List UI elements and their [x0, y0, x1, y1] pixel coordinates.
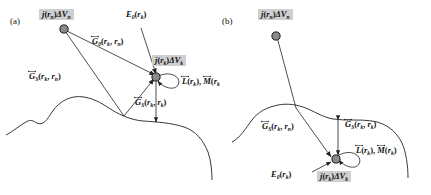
double-arrow-accent-icon: [91, 32, 100, 37]
gs-kn-b-sym-sub: S: [268, 126, 271, 132]
panel-b-graphics: [232, 32, 408, 178]
double-arrow-accent-icon: [344, 115, 353, 120]
m-a-arg-sub: k: [217, 81, 220, 87]
label-incident-b: E0(rk): [271, 170, 291, 179]
field-b-arg-sub: k: [329, 176, 332, 182]
m-b-tensor: M: [377, 146, 385, 155]
node-field-point-b: [332, 155, 340, 163]
g0-a-arg1-sub: k: [107, 41, 110, 47]
g0-a-sym-sub: 0: [98, 41, 101, 47]
gs-kk-b-arg2-sub: k: [371, 124, 374, 130]
gs-kn-b-arg2-sub: n: [288, 126, 291, 132]
label-lm-b: L (rk), M (rk): [356, 146, 397, 155]
node-source-b: [272, 32, 280, 40]
gs-kk-b-arg1-sub: k: [360, 124, 363, 130]
gs-kk-b-sym-sub: S: [351, 124, 354, 130]
field-a-delta-sub: k: [180, 60, 183, 66]
double-arrow-accent-icon: [354, 141, 363, 146]
label-source-a: j(rn)ΔVn: [39, 9, 74, 20]
l-a-arg-sub: k: [193, 81, 196, 87]
arrow-incident-a: [141, 28, 156, 74]
m-b-arg-sub: k: [391, 150, 394, 156]
node-source-a: [60, 25, 68, 33]
double-arrow-accent-icon: [261, 117, 270, 122]
gs-kk-a-sym-sub: S: [141, 102, 144, 108]
incident-a-rparen: ): [143, 9, 146, 19]
field-a-delta: ΔV: [169, 55, 180, 65]
arrow-gs-kn-b-seg2: [296, 108, 331, 157]
source-a-arg-sub: n: [51, 14, 54, 20]
gs-kk-a-rparen: ): [164, 97, 167, 107]
l-a-tensor: L: [182, 77, 187, 86]
gs-kn-a-sym-sub: S: [35, 76, 38, 82]
g0-a-rparen: ): [121, 36, 124, 46]
double-arrow-accent-icon: [203, 72, 212, 77]
gs-kn-a-arg2-sub: n: [55, 76, 58, 82]
self-loop-a: [158, 74, 179, 88]
m-b-rparen: ): [394, 145, 397, 155]
gs-kk-a-arg1-sub: k: [150, 102, 153, 108]
source-a-delta-sub: n: [68, 14, 71, 20]
gs-kk-a-arg2-sub: k: [161, 102, 164, 108]
label-gs-kk-b: G S(rk, rk): [345, 120, 376, 129]
label-source-b: j(rn)ΔVn: [258, 9, 293, 20]
field-b-delta: ΔV: [334, 171, 345, 181]
incident-a-symbol: E: [126, 9, 132, 19]
source-b-arg-sub: n: [270, 14, 273, 20]
l-b-arg-sub: k: [367, 150, 370, 156]
surface-curve-a: [6, 97, 212, 180]
gs-kn-b-arg1-sub: k: [277, 126, 280, 132]
m-a-tensor: M: [203, 77, 211, 86]
incident-b-symbol: E: [271, 169, 277, 179]
double-arrow-accent-icon: [377, 141, 386, 146]
gs-kn-a-arg1-sub: k: [44, 76, 47, 82]
panel-b-id: (b): [222, 17, 233, 26]
incident-b-rparen: ): [288, 169, 291, 179]
double-arrow-accent-icon: [28, 67, 37, 72]
label-field-point-b: j(rk)ΔVk: [317, 171, 351, 182]
figure-root: (a) (b) j(rn)ΔVn E0(rk) G 0(rk, rn): [0, 0, 431, 195]
gs-kn-a-rparen: ): [58, 71, 61, 81]
source-a-delta: ΔV: [57, 9, 68, 19]
label-field-point-a: j(rk)ΔVk: [152, 55, 186, 66]
double-arrow-accent-icon: [180, 72, 189, 77]
panel-a-id: (a): [10, 17, 20, 26]
gs-kk-b-rparen: ): [374, 119, 377, 129]
double-arrow-accent-icon: [134, 93, 143, 98]
field-b-delta-sub: k: [345, 176, 348, 182]
label-incident-a: E0(rk): [126, 10, 146, 19]
diagram-vectors: [0, 0, 431, 195]
label-gs-kn-a: G S(rk, rn): [29, 72, 61, 81]
label-lm-a: L (rk), M (rk: [182, 77, 220, 86]
arrow-gs-kn-b-seg1: [277, 37, 296, 108]
label-gs-kn-b: G S(rk, rn): [262, 122, 294, 131]
label-g0-a: G 0(rk, rn): [92, 37, 123, 46]
node-field-point-a: [152, 73, 160, 81]
field-a-arg-sub: k: [164, 60, 167, 66]
source-b-delta: ΔV: [276, 9, 287, 19]
label-gs-kk-a: G S(rk, rk): [135, 98, 166, 107]
panel-a-graphics: [6, 25, 212, 180]
l-b-tensor: L: [356, 146, 361, 155]
source-b-delta-sub: n: [287, 14, 290, 20]
g0-a-arg2-sub: n: [117, 41, 120, 47]
gs-kn-b-rparen: ): [291, 121, 294, 131]
